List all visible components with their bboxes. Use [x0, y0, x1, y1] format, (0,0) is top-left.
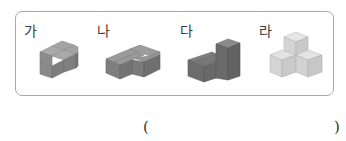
figure-ga [36, 40, 84, 82]
figure-da [186, 38, 242, 84]
option-label-ga: 가 [24, 24, 37, 38]
option-label-na: 나 [97, 24, 110, 38]
answer-open-paren: ( [143, 120, 149, 135]
answer-close-paren: ) [334, 120, 340, 135]
option-label-da: 다 [180, 24, 193, 38]
figure-na [104, 45, 164, 83]
figure-ra [268, 31, 324, 83]
